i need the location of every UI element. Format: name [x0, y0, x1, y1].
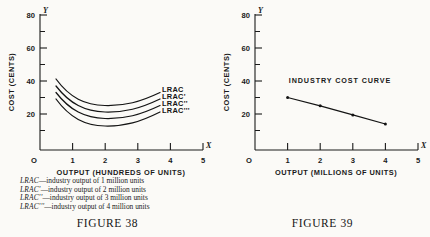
x-tick-label-5-38: 5	[201, 156, 206, 165]
y-tick-label-20-38: 20	[27, 110, 35, 119]
y-axis-title-39: COST (CENTS)	[222, 53, 231, 112]
data-point-1	[286, 96, 289, 99]
x-tick-label-3-39: 3	[351, 156, 355, 165]
x-tick-label-1-38: 1	[70, 156, 75, 165]
y-tick-label-20-39: 20	[242, 110, 250, 119]
figure-39-svg: 80 60 40 20 1 2 3 4 5 O Y X COST (CENTS)…	[215, 0, 430, 180]
figure-38-svg: 80 60 40 20 1 2 3 4 5 O Y X COST (CENTS)…	[0, 0, 215, 180]
y-axis-var-38: Y	[43, 6, 49, 15]
figure-39: 80 60 40 20 1 2 3 4 5 O Y X COST (CENTS)…	[215, 0, 430, 237]
legend-row-lrac-triple-prime: LRAC'''—industry output of 4 million uni…	[20, 203, 205, 212]
figure-38-plot: 80 60 40 20 1 2 3 4 5 O Y X COST (CENTS)…	[0, 0, 215, 180]
x-tick-label-2-39: 2	[318, 156, 322, 165]
x-tick-label-1-39: 1	[285, 156, 290, 165]
y-tick-label-40-39: 40	[242, 77, 250, 86]
curve-label-lrac-triple-prime: LRAC'''	[162, 106, 190, 115]
y-tick-label-60-38: 60	[27, 44, 35, 53]
x-tick-label-4-38: 4	[168, 156, 173, 165]
x-axis-var-39: X	[420, 141, 427, 150]
figure-38-caption: FIGURE 38	[0, 217, 215, 229]
figure-39-plot: 80 60 40 20 1 2 3 4 5 O Y X COST (CENTS)…	[215, 0, 430, 180]
data-point-3	[351, 113, 354, 116]
x-axis-var-38: X	[205, 141, 212, 150]
y-tick-label-60-39: 60	[242, 44, 250, 53]
x-tick-label-4-39: 4	[383, 156, 388, 165]
x-tick-label-3-38: 3	[136, 156, 140, 165]
y-axis-title-38: COST (CENTS)	[7, 53, 16, 112]
y-tick-label-80-39: 80	[242, 11, 250, 20]
x-tick-label-2-38: 2	[103, 156, 107, 165]
x-axis-title-39: OUTPUT (MILLIONS OF UNITS)	[275, 168, 397, 177]
industry-cost-curve-annotation: INDUSTRY COST CURVE	[289, 76, 391, 85]
data-point-2	[319, 104, 322, 107]
y-axis-var-39: Y	[258, 6, 264, 15]
y-tick-label-80-38: 80	[27, 11, 35, 20]
industry-cost-line	[288, 98, 386, 125]
legend-symbol-lrac-triple-prime: LRAC'''	[20, 202, 44, 211]
origin-label-38: O	[31, 156, 37, 165]
figure-39-caption: FIGURE 39	[215, 217, 430, 229]
origin-label-39: O	[246, 156, 252, 165]
data-point-4	[384, 123, 387, 126]
figure-38: 80 60 40 20 1 2 3 4 5 O Y X COST (CENTS)…	[0, 0, 215, 237]
figure-page: 80 60 40 20 1 2 3 4 5 O Y X COST (CENTS)…	[0, 0, 430, 237]
figure-38-legend: LRAC—industry output of 1 million units …	[20, 177, 205, 211]
x-tick-label-5-39: 5	[416, 156, 421, 165]
legend-text-lrac-triple-prime: —industry output of 4 million units	[44, 202, 149, 211]
y-tick-label-40-38: 40	[27, 77, 35, 86]
